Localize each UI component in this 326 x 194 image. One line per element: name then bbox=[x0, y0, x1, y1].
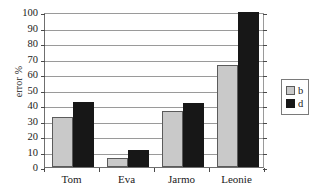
legend-swatch-b bbox=[286, 86, 295, 95]
y-axis-tick-mark bbox=[263, 14, 267, 15]
y-tick-label: 80 bbox=[8, 39, 38, 49]
bar-jarmo-d bbox=[183, 103, 204, 167]
x-tick-label-tom: Tom bbox=[61, 172, 81, 186]
bar-leonie-b bbox=[217, 65, 238, 167]
legend: bd bbox=[281, 79, 309, 115]
x-axis-tick-mark bbox=[264, 168, 265, 172]
x-tick-label-jarmo: Jarmo bbox=[168, 172, 195, 186]
y-axis-tick-mark bbox=[263, 30, 267, 31]
y-tick-label: 0 bbox=[8, 163, 38, 173]
legend-item-d: d bbox=[286, 97, 303, 110]
bars-layer bbox=[45, 14, 263, 167]
y-axis-tick-mark bbox=[263, 154, 267, 155]
y-tick-label: 30 bbox=[8, 117, 38, 127]
x-tick-label-eva: Eva bbox=[118, 172, 135, 186]
y-axis-tick-mark bbox=[263, 107, 267, 108]
y-axis-tick-mark bbox=[263, 45, 267, 46]
x-tick-label-leonie: Leonie bbox=[221, 172, 252, 186]
bar-eva-d bbox=[128, 150, 149, 167]
y-axis-tick-mark bbox=[263, 138, 267, 139]
y-axis-tick-mark bbox=[263, 61, 267, 62]
y-tick-label: 100 bbox=[8, 8, 38, 18]
legend-label-d: d bbox=[298, 98, 303, 109]
y-tick-label: 60 bbox=[8, 70, 38, 80]
y-tick-label: 10 bbox=[8, 148, 38, 158]
legend-label-b: b bbox=[298, 85, 303, 96]
plot-area bbox=[44, 13, 264, 168]
y-tick-label: 70 bbox=[8, 55, 38, 65]
bar-tom-b bbox=[52, 117, 73, 167]
y-axis-tick-mark bbox=[263, 76, 267, 77]
y-tick-label: 40 bbox=[8, 101, 38, 111]
y-axis-tick-mark bbox=[263, 123, 267, 124]
bar-leonie-d bbox=[238, 12, 259, 167]
y-tick-label: 90 bbox=[8, 24, 38, 34]
x-axis-tick-labels: TomEvaJarmoLeonie bbox=[44, 172, 264, 190]
y-axis-tick-mark bbox=[263, 92, 267, 93]
bar-jarmo-b bbox=[162, 111, 183, 167]
bar-tom-d bbox=[73, 102, 94, 167]
legend-item-b: b bbox=[286, 84, 303, 97]
y-tick-label: 50 bbox=[8, 86, 38, 96]
y-tick-label: 20 bbox=[8, 132, 38, 142]
y-axis-tick-labels: 0102030405060708090100 bbox=[8, 13, 38, 168]
bar-eva-b bbox=[107, 158, 128, 167]
legend-swatch-d bbox=[286, 99, 295, 108]
bar-chart: error % 0102030405060708090100 TomEvaJar… bbox=[0, 0, 326, 194]
